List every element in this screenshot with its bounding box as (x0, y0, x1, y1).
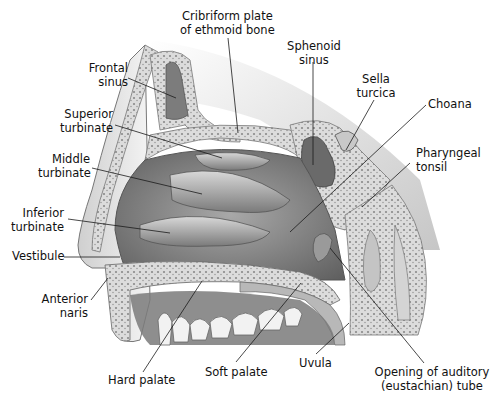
label-anterior-naris: Anterior naris (36, 293, 88, 320)
anatomy-illustration (0, 0, 494, 398)
label-middle-turbinate: Middle turbinate (38, 153, 90, 180)
label-frontal-sinus: Frontal sinus (72, 62, 128, 89)
label-sella-turcica: Sella turcica (354, 73, 398, 100)
label-uvula: Uvula (299, 357, 332, 371)
nasal-anatomy-diagram: Cribriform plate of ethmoid bone Frontal… (0, 0, 494, 398)
label-pharyngeal-tonsil: Pharyngeal tonsil (416, 147, 481, 174)
label-auditory-tube-opening: Opening of auditory (eustachian) tube (372, 366, 492, 393)
label-hard-palate: Hard palate (108, 374, 175, 388)
label-sphenoid-sinus: Sphenoid sinus (286, 40, 342, 67)
label-vestibule: Vestibule (12, 250, 65, 264)
label-choana: Choana (428, 98, 472, 112)
label-soft-palate: Soft palate (205, 366, 268, 380)
label-superior-turbinate: Superior turbinate (55, 108, 113, 135)
label-cribriform-plate: Cribriform plate of ethmoid bone (180, 10, 275, 37)
label-inferior-turbinate: Inferior turbinate (8, 207, 64, 234)
